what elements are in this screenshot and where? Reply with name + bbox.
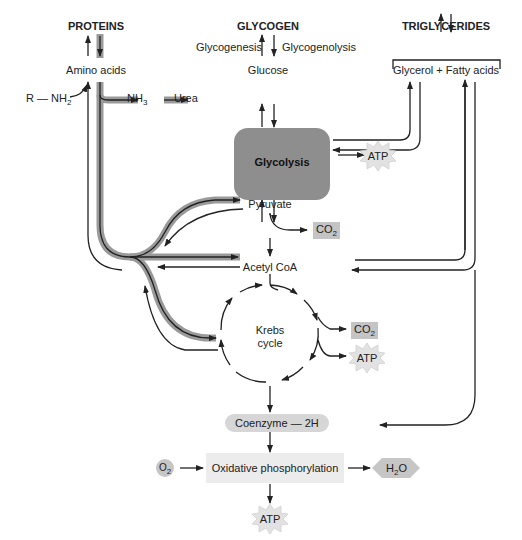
node-pyruvate: Pyruvate (248, 198, 291, 210)
node-urea: Urea (174, 92, 198, 104)
krebs-cycle-line2: cycle (257, 337, 282, 349)
krebs-cycle-line1: Krebs (256, 324, 285, 336)
o2-circle: O2 (156, 459, 174, 477)
node-glycogen: GLYCOGEN (237, 20, 299, 32)
label-glycogenesis: Glycogenesis (196, 41, 262, 53)
co2-pyruvate: CO2 (313, 222, 340, 239)
node-amino-acids: Amino acids (66, 64, 126, 76)
atp-glycolysis-label: ATP (368, 150, 389, 162)
coenzyme-2h-pill: Coenzyme — 2H (225, 414, 329, 432)
node-r-nh2: R — NH2 (26, 92, 71, 107)
node-acetyl-coa: Acetyl CoA (243, 261, 297, 273)
node-triglycerides: TRIGLYCERIDES (402, 20, 490, 32)
atp-oxidative-label: ATP (260, 513, 281, 525)
node-glycerol-fatty-acids: Glycerol + Fatty acids (393, 64, 499, 76)
glycolysis-box: Glycolysis (234, 128, 330, 200)
atp-krebs-label: ATP (357, 352, 378, 364)
label-glycogenolysis: Glycogenolysis (282, 41, 356, 53)
node-glucose: Glucose (248, 64, 288, 76)
node-nh3: NH3 (127, 92, 147, 107)
co2-krebs: CO2 (351, 322, 378, 339)
h2o-label: H2O (386, 462, 407, 477)
node-proteins: PROTEINS (68, 20, 124, 32)
oxidative-phosphorylation-box: Oxidative phosphorylation (206, 453, 344, 483)
